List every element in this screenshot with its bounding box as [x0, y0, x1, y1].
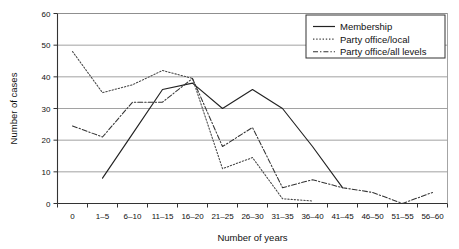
legend-label: Membership: [340, 21, 392, 32]
x-axis-tick-labels: 01–56–1011–1516–2021–2526–3031–3536–4041…: [70, 212, 444, 221]
x-tick-label: 26–30: [241, 212, 264, 221]
y-tick-label: 60: [42, 10, 51, 19]
y-tick-label: 0: [46, 200, 51, 209]
x-tick-label: 21–25: [211, 212, 234, 221]
series-line: [73, 52, 313, 201]
x-tick-label: 46–50: [361, 212, 384, 221]
y-axis-tick-labels: 0102030405060: [42, 10, 51, 209]
x-tick-label: 11–15: [152, 212, 174, 221]
y-axis-title: Number of cases: [8, 72, 19, 144]
line-chart: 0102030405060 01–56–1011–1516–2021–2526–…: [0, 0, 459, 249]
y-tick-label: 10: [42, 168, 51, 177]
chart-legend: MembershipParty office/localParty office…: [306, 15, 445, 58]
x-tick-label: 36–40: [301, 212, 324, 221]
x-tick-label: 1–5: [96, 212, 110, 221]
x-tick-label: 51–55: [391, 212, 414, 221]
legend-label: Party office/all levels: [340, 46, 427, 57]
data-series-layer: [73, 52, 433, 204]
x-tick-label: 6–10: [124, 212, 142, 221]
y-tick-label: 50: [42, 41, 51, 50]
x-tick-label: 41–45: [331, 212, 354, 221]
y-tick-label: 30: [42, 105, 51, 114]
y-tick-label: 40: [42, 73, 51, 82]
y-axis-ticks: [54, 14, 58, 204]
x-tick-label: 0: [70, 212, 75, 221]
x-tick-label: 56–60: [421, 212, 444, 221]
y-tick-label: 20: [42, 136, 51, 145]
legend-label: Party office/local: [340, 34, 410, 45]
x-tick-label: 31–35: [271, 212, 294, 221]
series-line: [73, 78, 433, 203]
x-tick-label: 16–20: [181, 212, 204, 221]
x-axis-ticks: [58, 204, 448, 208]
chart-container: 0102030405060 01–56–1011–1516–2021–2526–…: [0, 0, 459, 249]
x-axis-title: Number of years: [217, 232, 287, 243]
